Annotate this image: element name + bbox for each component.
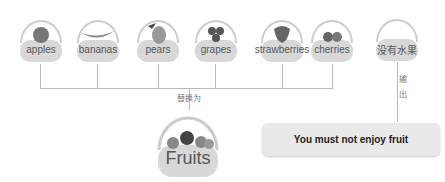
- basket-cherries: cherries: [308, 13, 356, 65]
- apple-icon: [17, 13, 65, 65]
- connector-bananas: [97, 64, 98, 88]
- basket-pears: pears: [134, 13, 182, 65]
- strawberry-icon: [258, 13, 306, 65]
- connector-pears: [158, 64, 159, 88]
- fruits-basket: Fruits: [153, 110, 223, 180]
- basket-grapes: grapes: [192, 13, 240, 65]
- basket-apples: apples: [17, 13, 65, 65]
- connector-cherries: [332, 64, 333, 88]
- connector-output: [397, 62, 398, 122]
- fruit-basket-icon: [153, 110, 223, 180]
- basket-strawberries: strawberries: [258, 13, 306, 65]
- connector-horizontal: [40, 88, 333, 89]
- basket-no-fruit: 没有水果: [373, 12, 421, 64]
- cherry-icon: [308, 13, 356, 65]
- pear-icon: [134, 13, 182, 65]
- connector-apples: [40, 64, 41, 88]
- output-label-1: 输: [399, 73, 407, 84]
- output-label-2: 出: [399, 88, 407, 99]
- replace-label: 替换为: [177, 92, 201, 103]
- connector-grapes: [215, 64, 216, 88]
- banana-icon: [74, 13, 122, 65]
- grapes-icon: [192, 13, 240, 65]
- basket-bananas: bananas: [74, 13, 122, 65]
- connector-strawberries: [282, 64, 283, 88]
- result-box: You must not enjoy fruit: [262, 123, 440, 156]
